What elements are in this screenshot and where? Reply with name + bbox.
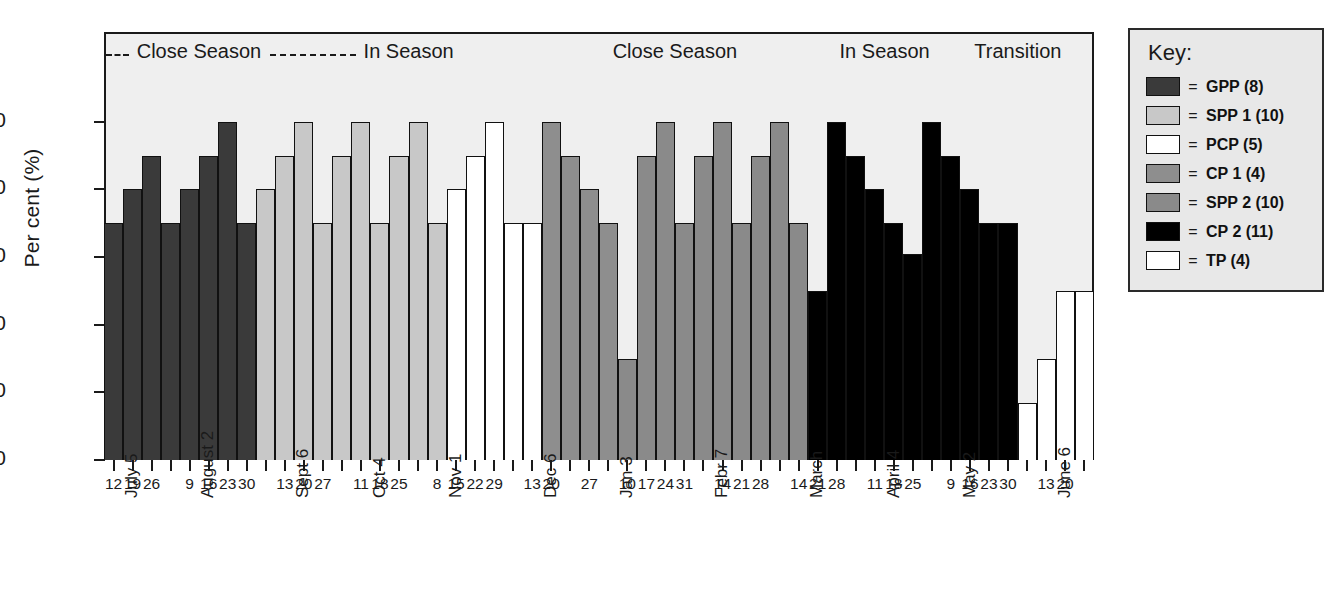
x-day-label: 27 xyxy=(580,473,599,495)
y-tick-label: 60 xyxy=(0,243,6,267)
x-month-label: May 2 xyxy=(960,378,980,498)
legend-equals-sign: = xyxy=(1180,136,1206,154)
legend-swatch xyxy=(1146,251,1180,270)
x-tick-mark xyxy=(998,460,1017,471)
legend-equals-sign: = xyxy=(1180,107,1206,125)
x-tick-mark xyxy=(428,460,447,471)
bar xyxy=(523,223,542,460)
x-day-label: 11 xyxy=(865,473,884,495)
bars-layer xyxy=(104,88,1094,460)
x-day-label: 23 xyxy=(218,473,237,495)
x-tick-mark xyxy=(466,460,485,471)
bar xyxy=(180,189,199,460)
legend-equals-sign: = xyxy=(1180,165,1206,183)
x-month-label: March xyxy=(807,378,827,498)
chart-container: Per cent (%) 100806040200 Close SeasonIn… xyxy=(0,0,1110,604)
y-tick-label: 80 xyxy=(0,175,6,199)
bar xyxy=(389,156,408,460)
x-day-label: 26 xyxy=(142,473,161,495)
legend-equals-sign: = xyxy=(1180,252,1206,270)
x-tick-mark xyxy=(313,460,332,471)
bar xyxy=(865,189,884,460)
bar xyxy=(1037,359,1056,460)
x-month-label: Oct 4 xyxy=(370,378,390,498)
bar xyxy=(694,156,713,460)
x-day-label: 28 xyxy=(751,473,770,495)
bar xyxy=(675,223,694,460)
season-band-label: Close Season xyxy=(137,40,262,63)
bar xyxy=(751,156,770,460)
x-tick-mark xyxy=(523,460,542,471)
y-axis-title: Per cent (%) xyxy=(20,58,44,358)
x-tick-mark xyxy=(979,460,998,471)
x-day-label xyxy=(561,473,580,495)
x-day-label: 30 xyxy=(237,473,256,495)
x-tick-mark xyxy=(142,460,161,471)
season-band-label: In Season xyxy=(364,40,454,63)
bar xyxy=(256,189,275,460)
legend-swatch xyxy=(1146,222,1180,241)
x-day-label: 9 xyxy=(941,473,960,495)
x-day-label: 9 xyxy=(180,473,199,495)
bar xyxy=(903,254,922,460)
x-day-label: 14 xyxy=(789,473,808,495)
bar xyxy=(637,156,656,460)
x-day-label: 28 xyxy=(827,473,846,495)
bar xyxy=(656,122,675,460)
legend-label: PCP (5) xyxy=(1206,136,1263,154)
x-day-label: 11 xyxy=(351,473,370,495)
x-tick-mark xyxy=(409,460,428,471)
legend-panel: Key: =GPP (8)=SPP 1 (10)=PCP (5)=CP 1 (4… xyxy=(1128,28,1324,292)
x-month-label: July 5 xyxy=(122,378,142,498)
bar xyxy=(770,122,789,460)
x-tick-mark xyxy=(104,460,123,471)
bar xyxy=(998,223,1017,460)
x-tick-mark xyxy=(237,460,256,471)
x-day-label: 13 xyxy=(523,473,542,495)
bar xyxy=(313,223,332,460)
x-day-label xyxy=(332,473,351,495)
x-tick-mark xyxy=(332,460,351,471)
x-month-label: Jan 3 xyxy=(617,378,637,498)
legend-equals-sign: = xyxy=(1180,194,1206,212)
x-month-label: August 2 xyxy=(198,378,218,498)
x-tick-mark xyxy=(770,460,789,471)
x-month-label: Febr 7 xyxy=(712,378,732,498)
x-tick-mark xyxy=(1075,460,1094,471)
x-tick-mark xyxy=(180,460,199,471)
legend-item: =SPP 2 (10) xyxy=(1146,188,1322,217)
x-day-label: 21 xyxy=(732,473,751,495)
x-tick-mark xyxy=(504,460,523,471)
x-tick-mark xyxy=(827,460,846,471)
x-month-label: Nov 1 xyxy=(446,378,466,498)
x-tick-mark xyxy=(256,460,275,471)
legend-swatch xyxy=(1146,106,1180,125)
x-tick-mark xyxy=(865,460,884,471)
x-tick-mark xyxy=(637,460,656,471)
y-tick-label: 100 xyxy=(0,108,6,132)
bar xyxy=(142,156,161,460)
legend-item: =SPP 1 (10) xyxy=(1146,101,1322,130)
legend-label: GPP (8) xyxy=(1206,78,1264,96)
legend-item: =CP 1 (4) xyxy=(1146,159,1322,188)
x-tick-mark xyxy=(218,460,237,471)
legend-swatch xyxy=(1146,193,1180,212)
x-day-label xyxy=(694,473,713,495)
x-day-label xyxy=(504,473,523,495)
x-tick-mark xyxy=(789,460,808,471)
legend-item: =GPP (8) xyxy=(1146,72,1322,101)
legend-item: =CP 2 (11) xyxy=(1146,217,1322,246)
bar xyxy=(485,122,504,460)
season-band-label: Transition xyxy=(974,40,1061,63)
bar xyxy=(161,223,180,460)
x-day-label: 13 xyxy=(275,473,294,495)
x-tick-mark xyxy=(389,460,408,471)
bar xyxy=(1075,291,1094,460)
x-axis-tick-marks xyxy=(104,460,1094,471)
x-axis-day-labels: 1219269162330132027111825815222913202710… xyxy=(104,473,1094,495)
legend-equals-sign: = xyxy=(1180,223,1206,241)
x-day-label xyxy=(256,473,275,495)
x-day-label xyxy=(599,473,618,495)
bar xyxy=(789,223,808,460)
legend-item: =TP (4) xyxy=(1146,246,1322,275)
